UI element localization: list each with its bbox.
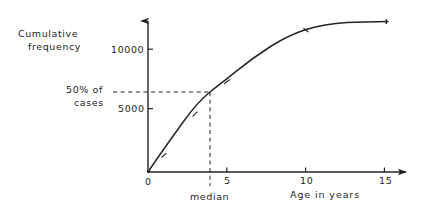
y-tick-label-5000: 5000: [118, 102, 145, 115]
x-tick-label-10: 10: [300, 174, 313, 187]
x-tick-label-5: 5: [224, 174, 231, 187]
ogive-curve: [148, 21, 388, 172]
annotation-median: median: [190, 190, 229, 203]
x-axis-title: Age in years: [290, 188, 360, 201]
y-axis-title: Cumulativefrequency: [18, 27, 81, 53]
origin-point: [147, 170, 150, 173]
annotation-half-cases-line2: cases: [66, 96, 104, 109]
annotation-half-cases-line1: 50% of: [66, 84, 103, 95]
annotation-half-cases: 50% ofcases: [66, 83, 104, 109]
curve-marker-x3: [193, 112, 198, 117]
y-tick-label-10000: 10000: [111, 43, 144, 56]
x-tick-label-15: 15: [379, 174, 392, 187]
y-axis-title-line2: frequency: [18, 40, 81, 53]
y-axis-title-line1: Cumulative: [18, 28, 78, 39]
chart-figure: Cumulativefrequency 50% ofcases 10000 50…: [0, 0, 425, 207]
x-tick-label-0: 0: [145, 175, 152, 188]
curve-marker-x1: [162, 153, 167, 157]
